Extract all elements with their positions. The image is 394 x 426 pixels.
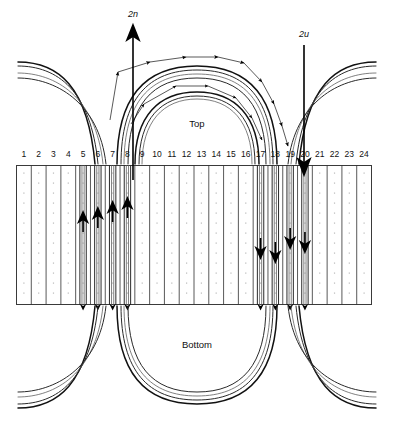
bottom-left-arc-bundle: [18, 306, 106, 408]
winding-diagram: 123456789101112131415161718192021222324: [0, 0, 394, 426]
slot-number-1: 1: [22, 149, 27, 159]
terminal-2n-label: 2n: [127, 9, 138, 19]
bottom-right-arc-bundle: [288, 306, 376, 408]
slot-number-21: 21: [315, 149, 325, 159]
slot-number-12: 12: [182, 149, 192, 159]
slot-number-15: 15: [226, 149, 236, 159]
slot-number-11: 11: [167, 149, 176, 159]
slot-number-4: 4: [66, 149, 71, 159]
slot-number-24: 24: [359, 149, 369, 159]
slot-number-10: 10: [152, 149, 162, 159]
slot-number-22: 22: [330, 149, 340, 159]
slot-number-9: 9: [140, 149, 145, 159]
slot-number-23: 23: [345, 149, 355, 159]
terminal-2u-label: 2u: [298, 29, 309, 39]
bottom-end-winding: [18, 306, 376, 408]
slot-number-8: 8: [125, 149, 130, 159]
slot-number-20: 20: [300, 149, 310, 159]
stator-slot-block: [17, 166, 372, 305]
top-region-label: Top: [189, 118, 204, 129]
slot-number-17: 17: [256, 149, 266, 159]
slot-number-3: 3: [51, 149, 56, 159]
bottom-region-label: Bottom: [182, 339, 212, 350]
slot-number-13: 13: [197, 149, 207, 159]
slot-number-18: 18: [271, 149, 281, 159]
slot-number-19: 19: [285, 149, 295, 159]
top-left-arc-bundle: [18, 62, 106, 164]
slot-number-16: 16: [241, 149, 251, 159]
slot-number-6: 6: [95, 149, 100, 159]
winding-diagram-canvas: 123456789101112131415161718192021222324: [0, 0, 394, 426]
slot-number-14: 14: [211, 149, 221, 159]
slot-number-7: 7: [110, 149, 115, 159]
slot-number-row: 123456789101112131415161718192021222324: [22, 149, 370, 159]
slot-number-5: 5: [81, 149, 86, 159]
slot-number-2: 2: [36, 149, 41, 159]
top-end-winding: [18, 57, 376, 164]
bottom-main-arc-bundle: [117, 306, 277, 404]
